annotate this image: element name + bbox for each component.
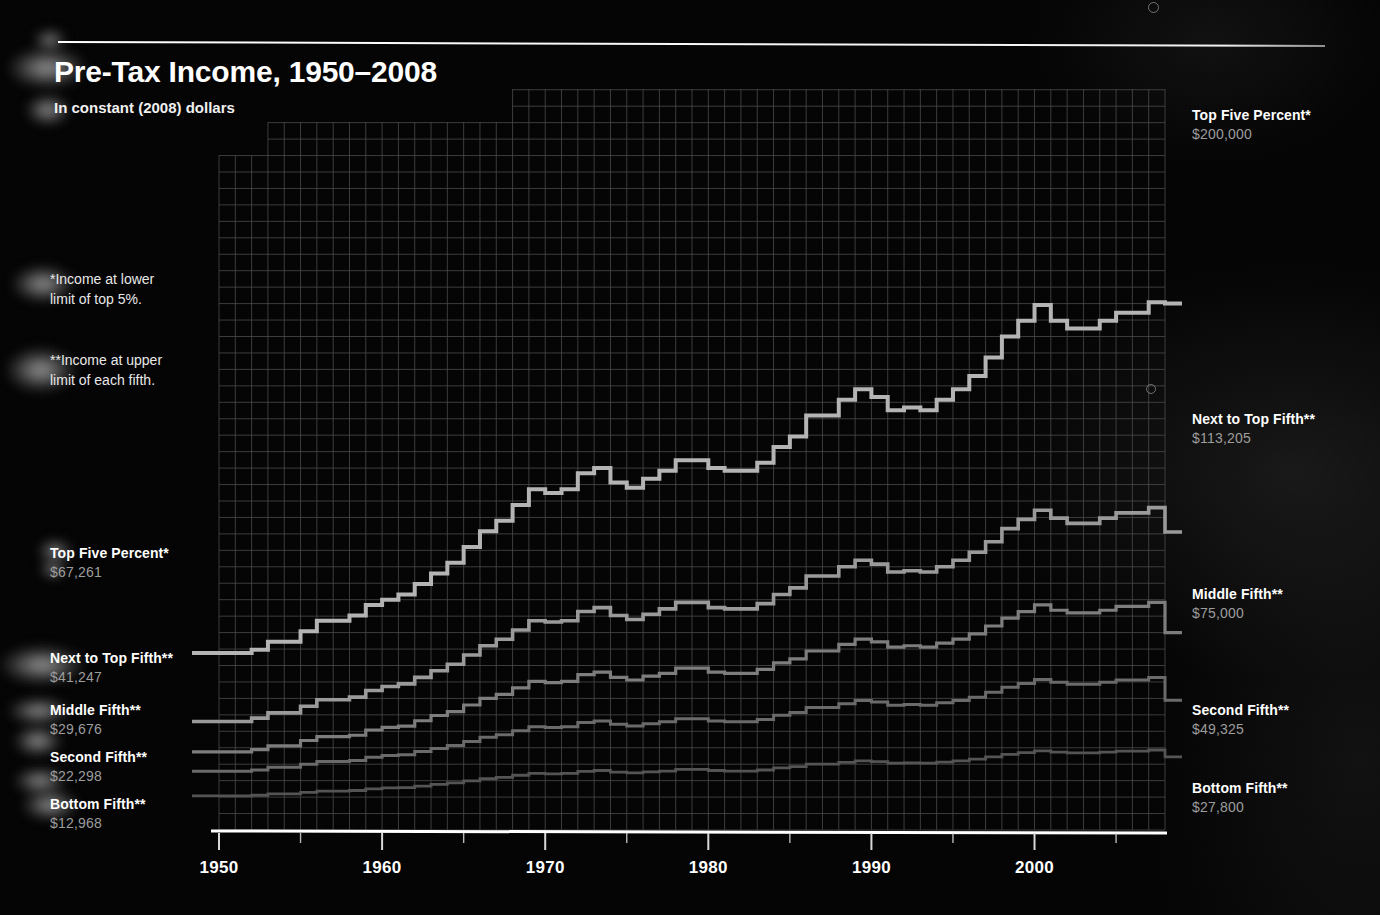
page-subtitle: In constant (2008) dollars (54, 99, 235, 116)
series-end-label-bottom-fifth: Bottom Fifth** $27,800 (1192, 780, 1288, 815)
series-name: Next to Top Fifth** (1192, 411, 1315, 427)
series-value: $29,676 (50, 721, 141, 737)
series-value: $113,205 (1192, 430, 1315, 446)
series-value: $49,325 (1192, 721, 1289, 737)
series-end-label-next-to-top-fifth: Next to Top Fifth** $113,205 (1192, 411, 1315, 446)
series-start-label-middle-fifth: Middle Fifth** $29,676 (50, 702, 141, 737)
series-value: $67,261 (50, 564, 169, 580)
x-tick-label-1960: 1960 (363, 858, 402, 878)
series-value: $12,968 (50, 815, 146, 831)
series-name: Second Fifth** (50, 749, 147, 765)
series-name: Bottom Fifth** (50, 796, 146, 812)
poster-background (0, 0, 1380, 915)
series-name: Next to Top Fifth** (50, 650, 173, 666)
x-tick-label-2000: 2000 (1015, 858, 1054, 878)
series-value: $200,000 (1192, 126, 1311, 142)
footnote-upper-limit: **Income at upper limit of each fifth. (50, 350, 162, 390)
series-start-label-next-to-top-fifth: Next to Top Fifth** $41,247 (50, 650, 173, 685)
series-start-label-top-five: Top Five Percent* $67,261 (50, 545, 169, 580)
series-value: $41,247 (50, 669, 173, 685)
x-tick-label-1950: 1950 (199, 858, 238, 878)
series-value: $22,298 (50, 768, 147, 784)
x-tick-label-1990: 1990 (852, 858, 891, 878)
series-name: Bottom Fifth** (1192, 780, 1288, 796)
series-name: Second Fifth** (1192, 702, 1289, 718)
series-name: Top Five Percent* (1192, 107, 1311, 123)
footnote-lower-limit: *Income at lower limit of top 5%. (50, 269, 154, 309)
series-value: $75,000 (1192, 605, 1283, 621)
series-start-label-bottom-fifth: Bottom Fifth** $12,968 (50, 796, 146, 831)
series-name: Middle Fifth** (1192, 586, 1283, 602)
series-end-label-second-fifth: Second Fifth** $49,325 (1192, 702, 1289, 737)
series-value: $27,800 (1192, 799, 1288, 815)
x-tick-label-1970: 1970 (526, 858, 565, 878)
series-end-label-middle-fifth: Middle Fifth** $75,000 (1192, 586, 1283, 621)
series-name: Top Five Percent* (50, 545, 169, 561)
series-end-label-top-five: Top Five Percent* $200,000 (1192, 107, 1311, 142)
page-title: Pre-Tax Income, 1950–2008 (54, 55, 437, 89)
x-tick-label-1980: 1980 (689, 858, 728, 878)
series-start-label-second-fifth: Second Fifth** $22,298 (50, 749, 147, 784)
series-name: Middle Fifth** (50, 702, 141, 718)
